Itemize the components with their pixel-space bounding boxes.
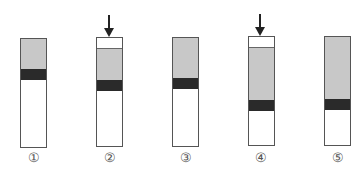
test-tube-1 — [20, 38, 47, 148]
test-tube-2 — [96, 37, 123, 147]
empty-cap-layer — [249, 37, 274, 48]
empty-cap-layer — [97, 38, 122, 49]
grey-layer — [173, 38, 198, 78]
tube-label-2: ② — [95, 150, 125, 165]
grey-layer — [21, 39, 46, 69]
dark-band — [325, 99, 350, 110]
grey-layer — [97, 49, 122, 80]
grey-layer — [325, 37, 350, 99]
tube-label-1: ① — [19, 150, 49, 165]
dark-band — [21, 69, 46, 80]
grey-layer — [249, 48, 274, 100]
dark-band — [249, 100, 274, 111]
test-tube-5 — [324, 36, 351, 146]
test-tube-4 — [248, 36, 275, 146]
dark-band — [97, 80, 122, 91]
test-tube-3 — [172, 37, 199, 147]
tube-label-5: ⑤ — [323, 150, 353, 165]
dark-band — [173, 78, 198, 89]
tube-label-4: ④ — [246, 150, 276, 165]
tube-label-3: ③ — [171, 150, 201, 165]
